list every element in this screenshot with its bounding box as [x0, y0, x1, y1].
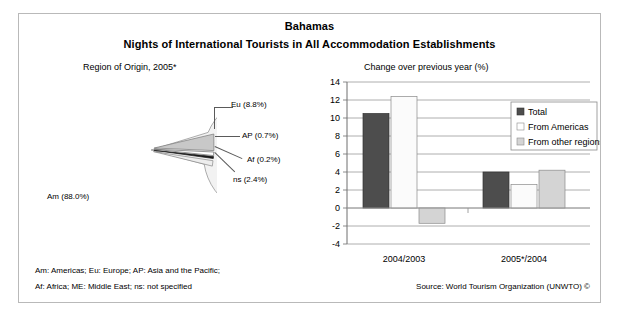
- footnote-abbreviations-line1: Am: Americas; Eu: Europe; AP: Asia and t…: [35, 266, 220, 275]
- y-tick-4: 4: [335, 167, 340, 177]
- chart-page: Bahamas Nights of International Tourists…: [0, 0, 619, 318]
- bar-2005-other-regions: [539, 170, 565, 208]
- pie-label-am: Am (88.0%): [47, 192, 89, 201]
- y-tick-6: 6: [335, 149, 340, 159]
- bar-2004-americas: [391, 96, 417, 208]
- y-tick-0: 0: [335, 203, 340, 213]
- bar-2005-americas: [511, 185, 537, 208]
- bar-chart-legend: Total From Americas From other regions: [511, 102, 600, 150]
- bar-2004-total: [363, 114, 389, 209]
- bar-chart-svg: 14 12 10 8 6 4 2 0 -2 -4: [315, 76, 600, 272]
- page-subtitle: Nights of International Tourists in All …: [19, 38, 600, 50]
- pie-label-af: Af (0.2%): [247, 155, 280, 164]
- leader-line-ap: [215, 136, 240, 137]
- y-tick-2: 2: [335, 185, 340, 195]
- legend-swatch-americas: [517, 123, 524, 130]
- bar-chart-x-axis-labels: 2004/2003 2005*/2004: [383, 254, 547, 264]
- legend-swatch-other-regions: [517, 138, 524, 145]
- chart-frame: Bahamas Nights of International Tourists…: [18, 13, 601, 303]
- pie-slice-eu: [154, 134, 214, 151]
- legend-label-americas: From Americas: [528, 122, 589, 132]
- footnote-abbreviations-line2: Af: Africa; ME: Middle East; ns: not spe…: [35, 282, 192, 291]
- legend-label-other-regions: From other regions: [528, 137, 600, 147]
- bar-2005-total: [483, 172, 509, 208]
- legend-swatch-total: [517, 108, 524, 115]
- y-tick-10: 10: [330, 113, 340, 123]
- pie-panel-title: Region of Origin, 2005*: [83, 62, 177, 72]
- leader-line-eu-elbow: [214, 107, 215, 129]
- bar-chart-panel: 14 12 10 8 6 4 2 0 -2 -4: [315, 76, 600, 272]
- bar-2004-other-regions: [419, 208, 445, 223]
- x-tick-2005-2004: 2005*/2004: [501, 254, 547, 264]
- y-tick-8: 8: [335, 131, 340, 141]
- y-tick-neg4: -4: [332, 239, 340, 249]
- y-tick-12: 12: [330, 95, 340, 105]
- bar-chart-y-axis-labels: 14 12 10 8 6 4 2 0 -2 -4: [330, 77, 340, 249]
- page-title: Bahamas: [19, 20, 600, 32]
- bar-panel-title: Change over previous year (%): [364, 62, 489, 72]
- pie-label-eu: Eu (8.8%): [231, 100, 267, 109]
- x-tick-2004-2003: 2004/2003: [383, 254, 426, 264]
- pie-label-ns: ns (2.4%): [233, 175, 267, 184]
- source-attribution: Source: World Tourism Organization (UNWT…: [416, 282, 590, 291]
- pie-chart: [91, 86, 217, 212]
- y-tick-14: 14: [330, 77, 340, 87]
- pie-label-ap: AP (0.7%): [242, 131, 278, 140]
- pie-svg: [91, 86, 217, 212]
- y-tick-neg2: -2: [332, 221, 340, 231]
- legend-label-total: Total: [528, 107, 547, 117]
- pie-chart-panel: Am (88.0%) Eu (8.8%) AP (0.7%) Af (0.2%)…: [19, 76, 309, 246]
